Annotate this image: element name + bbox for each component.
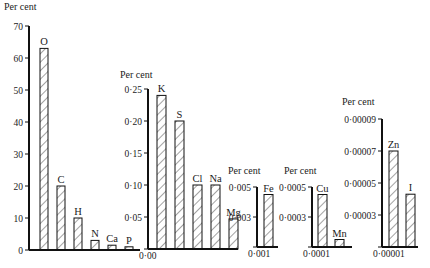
y-tick-label: 0·001 <box>248 249 270 259</box>
bar-cl <box>193 185 202 249</box>
bar-h <box>74 218 82 250</box>
chart-5: Per cent0·000010·000030·000050·000070·00… <box>342 96 418 259</box>
y-axis-unit-label: Per cent <box>4 1 37 12</box>
y-tick-label: 0·0003 <box>279 213 306 223</box>
chart-2: Per cent0·000·050·100·150·200·25KSClNaMg <box>120 69 242 261</box>
y-tick-label: 0 <box>18 246 23 256</box>
y-axis-unit-label: Per cent <box>284 165 317 176</box>
y-tick-label: 0·20 <box>125 117 143 127</box>
bar-cu <box>318 195 327 248</box>
y-tick-label: 0·25 <box>125 85 143 95</box>
y-tick-label: 0·00005 <box>344 179 376 189</box>
y-tick-label: 0·00003 <box>344 211 376 221</box>
bar-zn <box>389 151 398 247</box>
bar-na <box>211 185 220 249</box>
bar-fe <box>264 195 273 248</box>
y-tick-label: 0·00 <box>139 251 157 261</box>
bar-label: N <box>91 228 99 239</box>
y-tick-label: 0·00009 <box>344 115 376 125</box>
bar-c <box>57 186 65 250</box>
y-tick-label: 0·003 <box>229 213 251 223</box>
bar-label: Ca <box>106 233 118 244</box>
y-tick-label: 0·00007 <box>344 147 376 157</box>
bar-label: S <box>177 109 183 120</box>
bar-label: Cl <box>193 173 203 184</box>
bar-mn <box>335 240 344 248</box>
bar-label: C <box>57 174 64 185</box>
bar-n <box>91 240 99 250</box>
chart-4: Per cent0·00010·00030·0005CuMn <box>279 165 352 259</box>
y-tick-label: 40 <box>14 118 24 128</box>
y-tick-label: 0·05 <box>125 213 143 223</box>
y-tick-label: 0·00001 <box>373 249 405 259</box>
bar-mg <box>229 219 238 249</box>
bar-label: Zn <box>388 139 400 150</box>
y-axis-unit-label: Per cent <box>228 165 261 176</box>
bar-o <box>40 48 48 250</box>
y-tick-label: 20 <box>14 182 24 192</box>
bar-label: Mn <box>332 228 347 239</box>
element-composition-charts: Per cent010203040506070OCHNCaPPer cent0·… <box>0 0 430 268</box>
bar-i <box>406 194 415 247</box>
bar-label: K <box>158 83 166 94</box>
y-axis-unit-label: Per cent <box>120 69 153 80</box>
bar-ca <box>108 245 116 250</box>
y-tick-label: 60 <box>14 54 24 64</box>
bar-label: P <box>126 235 132 246</box>
y-tick-label: 70 <box>14 22 24 32</box>
bar-label: Cu <box>316 183 329 194</box>
chart-1: Per cent010203040506070OCHNCaP <box>4 1 140 256</box>
bar-p <box>125 247 133 250</box>
bar-label: Na <box>209 173 222 184</box>
bar-s <box>175 121 184 249</box>
y-axis-unit-label: Per cent <box>342 96 375 107</box>
bar-label: O <box>40 36 48 47</box>
y-tick-label: 0·15 <box>125 149 143 159</box>
bar-label: I <box>409 182 413 193</box>
bar-k <box>157 95 166 249</box>
bar-label: Fe <box>263 183 274 194</box>
y-tick-label: 10 <box>14 214 24 224</box>
y-tick-label: 0·10 <box>125 181 143 191</box>
bar-label: H <box>74 206 82 217</box>
y-tick-label: 0·0001 <box>303 249 330 259</box>
y-tick-label: 0·0005 <box>279 183 306 193</box>
y-tick-label: 50 <box>14 86 24 96</box>
y-tick-label: 0·005 <box>229 183 251 193</box>
y-tick-label: 30 <box>14 150 24 160</box>
